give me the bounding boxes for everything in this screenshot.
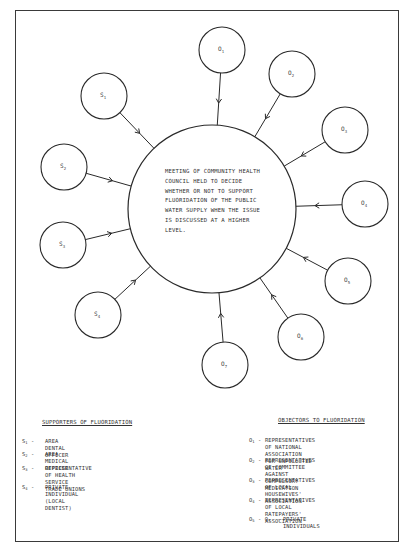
edge-o6-to-meeting bbox=[260, 278, 288, 318]
supporter-node-s3: S3 bbox=[40, 222, 86, 268]
objector-code: O1 - bbox=[249, 437, 261, 445]
objector-node-o3: O3 bbox=[322, 107, 368, 153]
edge-o7-to-meeting bbox=[219, 293, 223, 342]
objector-node-o1: O1 bbox=[199, 27, 245, 73]
edge-o1-to-meeting bbox=[217, 73, 220, 125]
edge-s1-to-meeting bbox=[120, 113, 154, 149]
edge-o3-to-meeting bbox=[284, 142, 325, 166]
supporter-code: S1 - bbox=[22, 438, 34, 446]
objector-node-o7: O7 bbox=[202, 342, 248, 388]
objector-node-o2: O2 bbox=[269, 51, 315, 97]
central-meeting-text: MEETING OF COMMUNITY HEALTH COUNCIL HELD… bbox=[165, 167, 275, 236]
objector-node-o5: O5 bbox=[325, 258, 371, 304]
supporter-code: S4 - bbox=[22, 484, 34, 492]
supporter-code: S3 - bbox=[22, 465, 34, 473]
edge-s3-to-meeting bbox=[85, 229, 130, 240]
supporter-node-s1: S1 bbox=[81, 73, 127, 119]
edge-s2-to-meeting bbox=[86, 173, 131, 186]
supporter-desc: PRIVATE INDIVIDUAL (LOCAL DENTIST) bbox=[45, 484, 78, 512]
objector-node-o4: O4 bbox=[342, 181, 388, 227]
edge-o2-to-meeting bbox=[255, 94, 280, 137]
supporters-legend-title: SUPPORTERS OF FLUORIDATION bbox=[42, 419, 132, 425]
objectors-legend-title: OBJECTORS TO FLUORIDATION bbox=[278, 417, 365, 423]
objector-code: O3 - bbox=[249, 477, 261, 485]
edge-o4-to-meeting bbox=[296, 205, 342, 207]
edge-o5-to-meeting bbox=[286, 248, 327, 270]
edge-s4-to-meeting bbox=[115, 266, 151, 299]
objector-code: O4 - bbox=[249, 497, 261, 505]
objector-code: O5 - O7 - bbox=[249, 516, 284, 524]
supporter-node-s2: S2 bbox=[41, 144, 87, 190]
objector-code: O2 - bbox=[249, 457, 261, 465]
objector-node-o6: O6 bbox=[278, 314, 324, 360]
supporter-code: S2 - bbox=[22, 451, 34, 459]
supporter-node-s4: S4 bbox=[75, 292, 121, 338]
objector-desc: PRIVATE INDIVIDUALS bbox=[283, 516, 320, 530]
